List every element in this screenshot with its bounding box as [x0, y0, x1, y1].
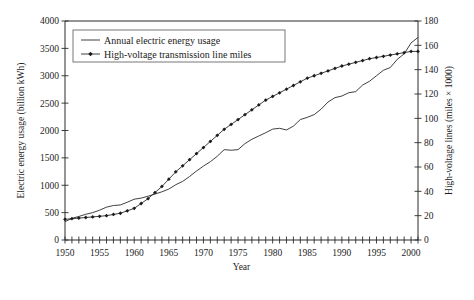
series-marker-transmission-miles [368, 57, 372, 61]
y-axis-left-tick-label: 1500 [40, 153, 59, 163]
x-axis-tick-label: 2000 [402, 248, 421, 258]
series-line-transmission-miles [65, 51, 418, 219]
x-axis-tick-label: 1995 [367, 248, 386, 258]
series-marker-transmission-miles [354, 60, 358, 64]
y-axis-right-tick-label: 100 [424, 114, 439, 124]
y-axis-right-tick-label: 20 [424, 211, 434, 221]
series-marker-transmission-miles [125, 209, 129, 213]
y-axis-right-tick-label: 160 [424, 41, 439, 51]
series-marker-transmission-miles [409, 50, 413, 54]
series-marker-transmission-miles [271, 95, 275, 99]
series-marker-transmission-miles [395, 52, 399, 56]
y-axis-right-tick-label: 0 [424, 235, 429, 245]
series-marker-transmission-miles [388, 53, 392, 57]
x-axis-tick-label: 1955 [90, 248, 109, 258]
series-marker-transmission-miles [340, 64, 344, 68]
series-marker-transmission-miles [278, 91, 282, 95]
y-axis-left-tick-label: 500 [45, 208, 60, 218]
y-axis-right-title: High-voltage lines (miles × 1000) [444, 66, 455, 195]
line-chart-canvas: 0500100015002000250030003500400002040608… [0, 0, 474, 300]
series-marker-transmission-miles [305, 76, 309, 80]
x-axis-tick-label: 1990 [332, 248, 351, 258]
x-axis-tick-label: 1965 [159, 248, 178, 258]
y-axis-right-tick-label: 120 [424, 89, 439, 99]
y-axis-left-tick-label: 2500 [40, 99, 59, 109]
series-marker-transmission-miles [91, 215, 95, 219]
series-marker-transmission-miles [361, 59, 365, 63]
series-marker-transmission-miles [118, 211, 122, 215]
y-axis-right-tick-label: 80 [424, 138, 434, 148]
y-axis-right-tick-label: 60 [424, 162, 434, 172]
y-axis-left-tick-label: 1000 [40, 181, 59, 191]
series-marker-transmission-miles [333, 67, 337, 71]
y-axis-right-tick-label: 140 [424, 65, 439, 75]
x-axis-tick-label: 1980 [263, 248, 282, 258]
legend-label-transmission-miles: High-voltage transmission line miles [104, 49, 252, 60]
chart-figure: 0500100015002000250030003500400002040608… [0, 0, 474, 300]
series-marker-transmission-miles [375, 56, 379, 60]
x-axis-tick-label: 1960 [125, 248, 144, 258]
series-marker-transmission-miles [285, 87, 289, 91]
series-marker-transmission-miles [70, 217, 74, 221]
x-axis-tick-label: 1970 [194, 248, 213, 258]
series-marker-transmission-miles [298, 80, 302, 84]
y-axis-left-tick-label: 3000 [40, 71, 59, 81]
y-axis-left-tick-label: 3500 [40, 44, 59, 54]
series-marker-transmission-miles [319, 71, 323, 75]
series-marker-transmission-miles [292, 84, 296, 88]
y-axis-left-title: Electric energy usage (billion kWh) [16, 63, 27, 199]
series-line-electric-energy-usage [65, 37, 418, 221]
y-axis-right-tick-label: 40 [424, 187, 434, 197]
series-marker-transmission-miles [112, 213, 116, 217]
y-axis-right-tick-label: 180 [424, 16, 439, 26]
series-marker-transmission-miles [381, 54, 385, 58]
x-axis-tick-label: 1975 [229, 248, 248, 258]
series-marker-transmission-miles [98, 214, 102, 218]
series-marker-transmission-miles [347, 62, 351, 66]
series-marker-transmission-miles [312, 74, 316, 78]
legend-label-electric-energy-usage: Annual electric energy usage [104, 35, 221, 46]
series-marker-transmission-miles [105, 214, 109, 218]
x-axis-tick-label: 1985 [298, 248, 317, 258]
y-axis-left-tick-label: 2000 [40, 126, 59, 136]
y-axis-left-tick-label: 0 [54, 235, 59, 245]
series-marker-transmission-miles [416, 50, 420, 54]
y-axis-left-tick-label: 4000 [40, 16, 59, 26]
x-axis-tick-label: 1950 [56, 248, 75, 258]
x-axis-title: Year [233, 262, 251, 272]
series-marker-transmission-miles [326, 69, 330, 73]
series-marker-transmission-miles [84, 216, 88, 220]
